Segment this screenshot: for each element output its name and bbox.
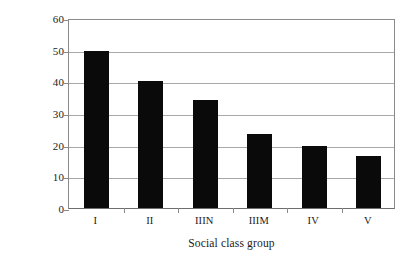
gridline: [69, 83, 394, 84]
y-axis-tick-label: 0: [42, 204, 64, 215]
bar: [247, 134, 272, 208]
x-axis-tick-label: II: [146, 216, 153, 227]
x-axis-tick-labels: IIIIIINIIIMIVV: [68, 216, 395, 232]
x-axis-tick-mark: [124, 208, 125, 213]
x-axis-tick-label: IV: [308, 216, 319, 227]
bar: [302, 146, 327, 208]
bar: [138, 81, 163, 208]
x-axis-tick-mark: [178, 208, 179, 213]
y-axis-tick-mark: [63, 178, 69, 179]
x-axis-title: Social class group: [68, 238, 395, 250]
y-axis-tick-mark: [63, 115, 69, 116]
y-axis-tick-label: 30: [42, 109, 64, 120]
gridline: [69, 178, 394, 179]
y-axis-tick-label: 20: [42, 140, 64, 151]
gridline: [69, 52, 394, 53]
y-axis-tick-mark: [63, 147, 69, 148]
y-axis-tick-label: 50: [42, 45, 64, 56]
x-axis-tick-label: I: [93, 216, 97, 227]
bar: [84, 51, 109, 208]
y-axis-tick-mark: [63, 210, 69, 211]
y-axis-tick-labels: 6050403020100: [42, 0, 64, 271]
x-axis-tick-mark: [287, 208, 288, 213]
y-axis-tick-label: 10: [42, 172, 64, 183]
y-axis-tick-mark: [63, 83, 69, 84]
y-axis-tick-mark: [63, 52, 69, 53]
bar: [356, 156, 381, 208]
y-axis-tick-label: 60: [42, 14, 64, 25]
x-axis-tick-label: V: [364, 216, 372, 227]
gridline: [69, 115, 394, 116]
bar-chart: % taking regular physical activity in le…: [0, 0, 411, 271]
y-axis-tick-label: 40: [42, 77, 64, 88]
x-axis-tick-mark: [233, 208, 234, 213]
y-axis-tick-mark: [63, 20, 69, 21]
plot-area: [68, 19, 395, 209]
bar: [193, 100, 218, 208]
x-axis-tick-label: IIIN: [195, 216, 213, 227]
x-axis-tick-label: IIIM: [249, 216, 269, 227]
gridline: [69, 147, 394, 148]
x-axis-tick-mark: [342, 208, 343, 213]
